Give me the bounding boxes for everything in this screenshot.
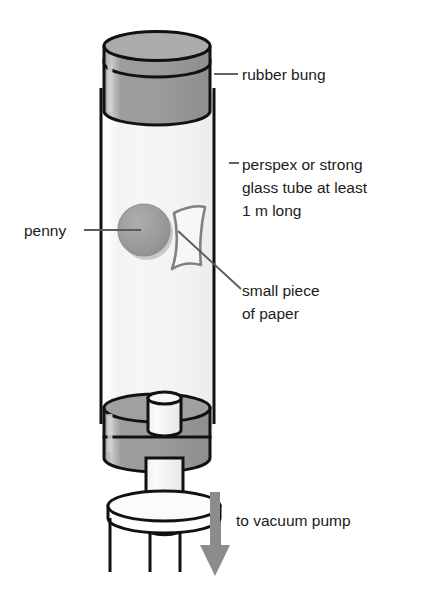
stand-base: [108, 491, 220, 572]
paper-outline: [172, 206, 205, 269]
label-tube-line2: glass tube at least: [242, 179, 368, 196]
label-tube-line1: perspex or strong: [242, 156, 363, 173]
tube-body: [101, 92, 214, 439]
bung-top-cap: [104, 32, 210, 61]
label-paper-line2: of paper: [242, 305, 299, 322]
label-penny: penny: [24, 222, 66, 239]
label-tube-line3: 1 m long: [242, 202, 301, 219]
label-paper-line1: small piece: [242, 282, 320, 299]
paper-piece: [172, 206, 205, 269]
diagram-root: rubber bung perspex or strong glass tube…: [0, 0, 421, 589]
vacuum-tube-diagram: rubber bung perspex or strong glass tube…: [0, 0, 421, 589]
inner-nozzle: [148, 392, 181, 436]
vacuum-arrow-shaft: [210, 492, 220, 547]
label-to-vacuum-pump: to vacuum pump: [236, 512, 351, 529]
inner-nozzle-mouth: [148, 392, 181, 404]
vacuum-arrow-head: [200, 545, 230, 576]
rubber-bung-top: [104, 32, 210, 126]
stand-collar-top: [108, 491, 220, 521]
label-rubber-bung: rubber bung: [242, 66, 326, 83]
